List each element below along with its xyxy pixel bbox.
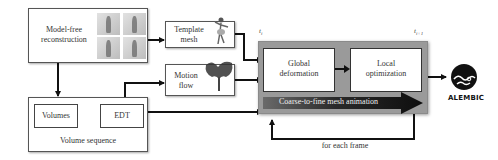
motion-flow-label-line2: flow [168,81,204,91]
template-mesh-label-line1: Template [168,25,210,35]
capture-thumbnail-3 [97,37,120,59]
for-each-frame-label: for each frame [300,141,390,151]
model-free-reconstruction-box: Model-free reconstruction [28,8,148,63]
global-deformation-label: Global deformation [264,59,334,79]
volumes-label: Volumes [35,111,77,121]
t-start-subscript: i [261,31,262,36]
motion-flow-figure-icon [202,59,236,93]
model-free-label: Model-free reconstruction [33,25,95,45]
global-deformation-box: Global deformation [263,48,335,92]
volume-sequence-box: Volumes EDT Volume sequence [28,97,148,152]
template-mesh-label-line2: mesh [168,35,210,45]
local-optimization-label: Local optimization [351,59,421,79]
capture-thumbnail-1 [97,13,120,35]
volumes-box: Volumes [34,104,78,128]
capture-thumbnail-4 [123,37,146,59]
local-optimization-box: Local optimization [350,48,422,92]
model-free-label-line2: reconstruction [33,35,95,45]
global-deformation-line1: Global [264,59,334,69]
time-start-label: ti [259,27,262,36]
global-deformation-line2: deformation [264,69,334,79]
motion-flow-label: Motion flow [168,71,204,91]
local-optimization-line1: Local [351,59,421,69]
volume-sequence-label: Volume sequence [29,136,147,146]
edt-label: EDT [101,111,143,121]
capture-thumbnail-2 [123,13,146,35]
edt-box: EDT [100,104,144,128]
global-to-local-arrow [335,64,351,74]
t-end-subscript: i+1 [416,31,423,36]
mesh-figure-icon [212,16,232,48]
alembic-label: ALEMBIC [448,94,484,102]
model-free-label-line1: Model-free [33,25,95,35]
time-end-label: ti+1 [414,27,423,36]
alembic-logo-icon [449,62,479,92]
motion-flow-label-line1: Motion [168,71,204,81]
mesh-animation-panel: Global deformation Local optimization Co… [258,41,428,114]
coarse-to-fine-label: Coarse-to-fine mesh animation [279,97,378,106]
template-mesh-box: Template mesh [165,21,235,48]
motion-flow-box: Motion flow [165,64,235,96]
local-optimization-line2: optimization [351,69,421,79]
template-mesh-label: Template mesh [168,25,210,45]
